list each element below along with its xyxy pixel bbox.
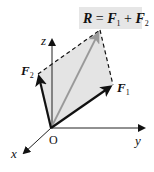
label-f1: F1 [116,80,130,97]
label-z-axis: z [40,33,46,48]
label-f2: F2 [20,63,34,80]
equation-label: R = F1 + F2 [82,11,149,28]
label-origin: O [49,133,58,147]
x-axis [24,128,51,153]
vector-addition-diagram: R = F1 + F2 F2 F1 O y x z [0,0,154,172]
label-x-axis: x [10,146,17,161]
label-y-axis: y [133,133,141,148]
